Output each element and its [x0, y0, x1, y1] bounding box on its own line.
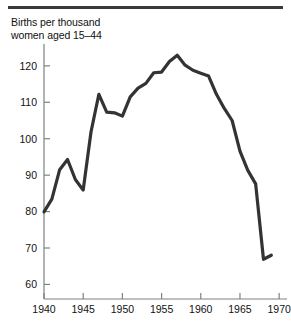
series-line — [44, 55, 271, 259]
y-axis-tick-label: 70 — [25, 242, 37, 254]
y-axis-tick-label: 90 — [25, 169, 37, 181]
x-axis-tick-label: 1950 — [111, 303, 135, 315]
x-axis-tick-label: 1960 — [189, 303, 213, 315]
y-axis-tick-label: 100 — [19, 133, 37, 145]
line-chart-plot: 60708090100110120 1940194519501955196019… — [0, 0, 291, 332]
y-axis-tick-label: 110 — [20, 96, 37, 108]
x-axis-tick-label: 1955 — [150, 303, 174, 315]
chart-figure: Births per thousand women aged 15–44 607… — [0, 0, 291, 332]
x-axis-tick-label: 1940 — [32, 303, 56, 315]
data-series-births-rate — [44, 55, 271, 259]
x-axis-tick-label: 1965 — [228, 303, 252, 315]
x-axis-tick-label: 1970 — [267, 303, 291, 315]
y-axis-tick-label: 120 — [19, 60, 37, 72]
y-axis-tick-label: 80 — [25, 205, 37, 217]
x-axis: 1940194519501955196019651970 — [32, 293, 291, 315]
y-axis: 60708090100110120 — [19, 44, 50, 299]
x-axis-tick-label: 1945 — [72, 303, 96, 315]
y-axis-tick-label: 60 — [25, 278, 37, 290]
